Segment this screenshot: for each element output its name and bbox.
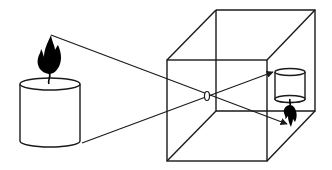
flame-icon	[38, 35, 61, 74]
pinhole-camera-diagram: Pinhole camera (camera obscura)	[0, 0, 332, 170]
light-rays	[51, 35, 287, 143]
candle	[20, 35, 80, 147]
pinhole	[205, 92, 210, 101]
inverted-candle-image	[275, 69, 305, 128]
